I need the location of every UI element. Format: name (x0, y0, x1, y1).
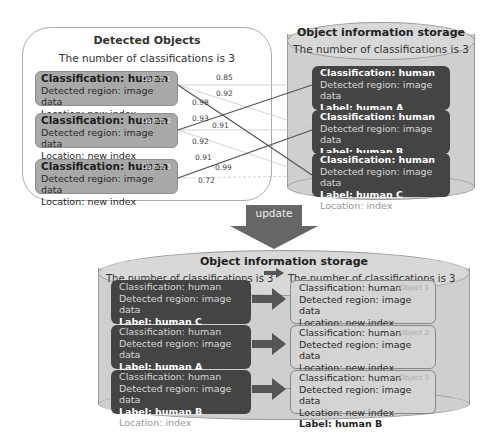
region-text: Detected region: image data (299, 339, 435, 362)
arrow-right-icon (252, 288, 286, 310)
classification-text: Classification: human (119, 371, 251, 383)
old-record-b: Classification: human Detected region: i… (111, 370, 251, 414)
label-text: Label: human B (299, 418, 435, 430)
region-text: Detected region: image data (119, 338, 251, 361)
arrow-right-icon (252, 333, 286, 355)
old-record-a: Classification: human Detected region: i… (111, 325, 251, 369)
new-record-1: Classification: human Detected region: i… (290, 280, 436, 324)
new-record-3: Classification: human Detected region: i… (290, 370, 436, 414)
label-text: Label: human B (119, 406, 251, 418)
old-record-c: Classification: human Detected region: i… (111, 280, 251, 324)
region-text: Detected region: image data (299, 294, 435, 317)
classification-text: Classification: human (119, 281, 251, 293)
region-text: Detected region: image data (119, 293, 251, 316)
region-text: Detected region: image data (299, 384, 435, 407)
arrow-right-icon (264, 268, 284, 278)
arrow-right-icon (252, 378, 286, 400)
new-record-2: Classification: human Detected region: i… (290, 325, 436, 369)
location-text: Location: index (119, 417, 251, 429)
region-text: Detected region: image data (119, 383, 251, 406)
location-text: Location: new index (299, 407, 435, 419)
classification-text: Classification: human (119, 326, 251, 338)
object-tag: Object 2 (400, 328, 429, 340)
object-tag: Object 3 (400, 373, 429, 385)
object-tag: Object 1 (400, 283, 429, 295)
